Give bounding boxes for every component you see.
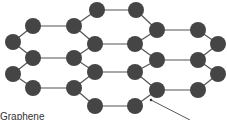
carbon-atom-node bbox=[25, 18, 41, 34]
carbon-atom-node bbox=[128, 2, 144, 18]
carbon-atom-node bbox=[190, 82, 206, 98]
carbon-atom-node bbox=[87, 64, 103, 80]
carbon-atom-node bbox=[127, 98, 143, 114]
carbon-atom-node bbox=[87, 98, 103, 114]
carbon-atom-node bbox=[66, 80, 82, 96]
carbon-atom-node bbox=[66, 18, 82, 34]
carbon-atom-node bbox=[66, 50, 82, 66]
carbon-atom-node bbox=[210, 66, 226, 82]
carbon-atom-node bbox=[149, 22, 165, 38]
carbon-atom-node bbox=[89, 2, 105, 18]
pointer-line bbox=[151, 100, 190, 120]
carbon-atom-node bbox=[25, 80, 41, 96]
graphene-lattice-diagram bbox=[0, 0, 227, 120]
carbon-atom-node bbox=[149, 82, 165, 98]
carbon-atom-node bbox=[190, 22, 206, 38]
carbon-atom-node bbox=[127, 64, 143, 80]
carbon-atom-node bbox=[5, 66, 21, 82]
carbon-atom-node bbox=[87, 36, 103, 52]
carbon-atom-node bbox=[210, 36, 226, 52]
carbon-atom-node bbox=[127, 36, 143, 52]
graphene-label: Graphene bbox=[0, 112, 44, 120]
carbon-atom-node bbox=[190, 52, 206, 68]
carbon-atom-node bbox=[25, 50, 41, 66]
carbon-atom-node bbox=[5, 34, 21, 50]
carbon-atom-node bbox=[149, 52, 165, 68]
pointer-dot bbox=[150, 99, 153, 102]
